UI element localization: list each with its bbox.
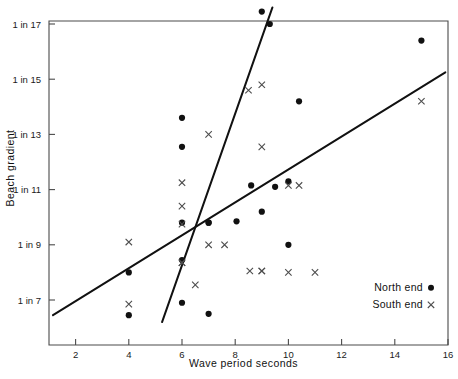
legend-label-north-end: North end bbox=[374, 281, 423, 293]
data-point-north bbox=[259, 209, 265, 215]
plot-axes bbox=[49, 21, 448, 345]
x-axis-title: Wave period seconds bbox=[189, 357, 298, 369]
data-point-north bbox=[248, 182, 254, 188]
data-point-north bbox=[285, 242, 291, 248]
y-tick-label: 1 in 17 bbox=[12, 19, 41, 30]
south-end-trend bbox=[53, 72, 445, 315]
y-tick-label: 1 in 7 bbox=[18, 295, 41, 306]
x-tick-label: 12 bbox=[336, 349, 347, 360]
north-end-trend bbox=[162, 7, 272, 322]
data-point-north bbox=[233, 218, 239, 224]
scatter-plot: 246810121416 1 in 71 in 91 in 111 in 131… bbox=[0, 0, 458, 379]
x-tick-label: 6 bbox=[179, 349, 184, 360]
data-point-south bbox=[192, 282, 198, 288]
y-tick-label: 1 in 15 bbox=[12, 74, 41, 85]
data-point-south bbox=[179, 180, 185, 186]
data-point-south bbox=[259, 268, 265, 274]
data-point-north bbox=[259, 8, 265, 14]
data-point-north bbox=[206, 220, 212, 226]
x-tick-label: 4 bbox=[126, 349, 131, 360]
data-point-south bbox=[205, 242, 211, 248]
x-tick-label: 14 bbox=[390, 349, 401, 360]
data-point-south bbox=[259, 82, 265, 88]
data-point-north bbox=[179, 220, 185, 226]
data-point-south bbox=[126, 301, 132, 307]
data-point-south bbox=[245, 87, 251, 93]
data-point-south bbox=[296, 182, 302, 188]
legend-marker-south-icon bbox=[428, 302, 434, 308]
y-axis-title: Beach gradient bbox=[4, 130, 16, 207]
chart-legend: North endSouth end bbox=[372, 281, 434, 310]
x-tick-label: 16 bbox=[443, 349, 454, 360]
chart-figure: 246810121416 1 in 71 in 91 in 111 in 131… bbox=[0, 0, 458, 379]
data-point-south bbox=[247, 268, 253, 274]
trend-lines bbox=[53, 7, 445, 322]
data-point-north bbox=[126, 312, 132, 318]
data-point-north bbox=[179, 115, 185, 121]
y-tick-label: 1 in 11 bbox=[13, 184, 41, 195]
data-point-south bbox=[312, 269, 318, 275]
plot-frame bbox=[49, 21, 448, 345]
data-point-south bbox=[285, 269, 291, 275]
data-point-south bbox=[221, 242, 227, 248]
data-point-north bbox=[206, 311, 212, 317]
data-point-north bbox=[296, 98, 302, 104]
data-point-south bbox=[179, 203, 185, 209]
y-tick-label: 1 in 9 bbox=[18, 239, 41, 250]
data-point-north bbox=[179, 300, 185, 306]
data-point-south bbox=[205, 131, 211, 137]
data-point-north bbox=[418, 37, 424, 43]
data-points bbox=[126, 8, 425, 318]
data-point-south bbox=[259, 144, 265, 150]
x-tick-label: 2 bbox=[73, 349, 78, 360]
data-point-south bbox=[418, 98, 424, 104]
y-tick-label: 1 in 13 bbox=[12, 129, 41, 140]
data-point-north bbox=[126, 269, 132, 275]
data-point-north bbox=[179, 144, 185, 150]
data-point-north bbox=[267, 21, 273, 27]
data-point-north bbox=[272, 184, 278, 190]
data-point-south bbox=[126, 239, 132, 245]
legend-marker-north-icon bbox=[428, 285, 434, 291]
axis-titles: Wave period secondsBeach gradient bbox=[4, 130, 298, 369]
legend-label-south-end: South end bbox=[372, 298, 423, 310]
